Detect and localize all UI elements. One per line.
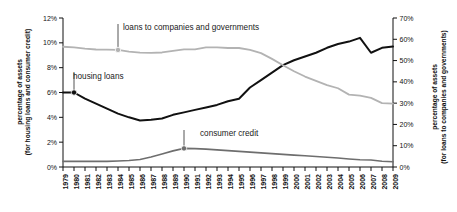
chart-container: 0%2%4%6%8%10%12%0%10%20%30%40%50%60%70%1… [0,0,457,212]
left-axis-tick-label: 0% [47,164,57,171]
left-axis-tick-label: 10% [43,39,57,46]
x-axis-tick-label: 2005 [348,174,355,190]
annotation-label: housing loans [73,72,124,81]
right-axis-tick-label: 20% [400,121,414,128]
x-axis-tick-label: 2009 [392,174,399,190]
x-axis-tick-label: 1996 [249,174,256,190]
line-chart: 0%2%4%6%8%10%12%0%10%20%30%40%50%60%70%1… [0,0,457,212]
x-axis-tick-label: 1987 [150,174,157,190]
x-axis-tick-label: 1981 [84,174,91,190]
x-axis-tick-label: 1999 [282,174,289,190]
x-axis-tick-label: 2008 [381,174,388,190]
annotation-marker [181,146,186,151]
left-axis-tick-label: 12% [43,15,57,22]
left-axis-tick-label: 8% [47,64,57,71]
annotation-marker [115,47,120,52]
x-axis-tick-label: 2004 [337,174,344,190]
x-axis-tick-label: 2007 [370,174,377,190]
x-axis-tick-label: 1991 [194,174,201,190]
x-axis-tick-label: 1992 [205,174,212,190]
right-axis-tick-label: 40% [400,78,414,85]
x-axis-tick-label: 1980 [73,174,80,190]
x-axis-tick-label: 2001 [304,174,311,190]
x-axis-tick-label: 1986 [139,174,146,190]
annotation-marker [71,90,76,95]
series-line-consumer-credit [63,148,393,161]
x-axis-tick-label: 1984 [117,174,124,190]
annotation-label: loans to companies and governments [123,23,259,32]
left-axis-title: percentage of assets [16,59,24,125]
left-axis-tick-label: 4% [47,114,57,121]
right-axis-tick-label: 50% [400,57,414,64]
right-axis-title: percentage of assets [431,64,439,130]
x-axis-tick-label: 1990 [183,174,190,190]
x-axis-tick-label: 1995 [238,174,245,190]
x-axis-tick-label: 1989 [172,174,179,190]
x-axis-tick-label: 1985 [128,174,135,190]
x-axis-tick-label: 1998 [271,174,278,190]
right-axis-tick-label: 70% [400,15,414,22]
left-axis-tick-label: 6% [47,89,57,96]
x-axis-tick-label: 1979 [62,174,69,190]
left-axis-tick-label: 2% [47,139,57,146]
x-axis-tick-label: 1982 [95,174,102,190]
right-axis-tick-label: 0% [400,164,410,171]
x-axis-tick-label: 2002 [315,174,322,190]
right-axis-tick-label: 60% [400,36,414,43]
right-axis-subtitle: (for loans to companies and governments) [440,30,448,163]
x-axis-tick-label: 1993 [216,174,223,190]
x-axis-tick-label: 2006 [359,174,366,190]
right-axis-tick-label: 30% [400,100,414,107]
annotation-label: consumer credit [200,129,259,138]
x-axis-tick-label: 1988 [161,174,168,190]
x-axis-tick-label: 1997 [260,174,267,190]
left-axis-subtitle: (for housing loans and consumer credit) [24,29,32,155]
x-axis-tick-label: 1994 [227,174,234,190]
x-axis-tick-label: 2000 [293,174,300,190]
right-axis-tick-label: 10% [400,142,414,149]
x-axis-tick-label: 1983 [106,174,113,190]
x-axis-tick-label: 2003 [326,174,333,190]
